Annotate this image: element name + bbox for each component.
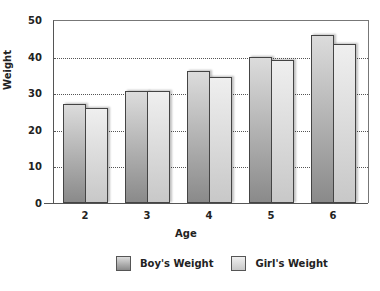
bar-boy-4 [187, 71, 210, 203]
legend-item-boy: Boy's Weight [116, 256, 213, 271]
x-tick-label: 6 [318, 210, 348, 221]
legend-item-girl: Girl's Weight [231, 256, 327, 271]
y-tick-label: 0 [0, 198, 42, 209]
x-tick-label: 5 [256, 210, 286, 221]
x-tick-label: 2 [70, 210, 100, 221]
plot-area [53, 20, 369, 203]
y-tick-label: 20 [0, 124, 42, 135]
x-tick-label: 3 [132, 210, 162, 221]
bar-girl-3 [147, 91, 170, 203]
legend: Boy's Weight Girl's Weight [116, 256, 338, 271]
bar-girl-4 [209, 77, 232, 203]
x-tick-label: 4 [194, 210, 224, 221]
legend-label-girl: Girl's Weight [255, 258, 327, 269]
bar-boy-2 [63, 104, 86, 203]
x-axis-title: Age [175, 228, 197, 239]
y-tick-label: 30 [0, 88, 42, 99]
x-axis-line [44, 203, 368, 204]
bar-boy-6 [311, 35, 334, 203]
legend-label-boy: Boy's Weight [140, 258, 213, 269]
y-tick-label: 40 [0, 51, 42, 62]
legend-swatch-boy [116, 256, 131, 271]
bar-boy-3 [125, 91, 148, 203]
bar-chart: Weight 01020304050 23456 Age Boy's Weigh… [0, 0, 380, 291]
y-tick-label: 10 [0, 161, 42, 172]
bar-boy-5 [249, 57, 272, 203]
bar-girl-2 [85, 108, 108, 203]
bar-girl-6 [333, 44, 356, 203]
y-tick-label: 50 [0, 15, 42, 26]
legend-swatch-girl [231, 256, 246, 271]
bar-girl-5 [271, 60, 294, 203]
